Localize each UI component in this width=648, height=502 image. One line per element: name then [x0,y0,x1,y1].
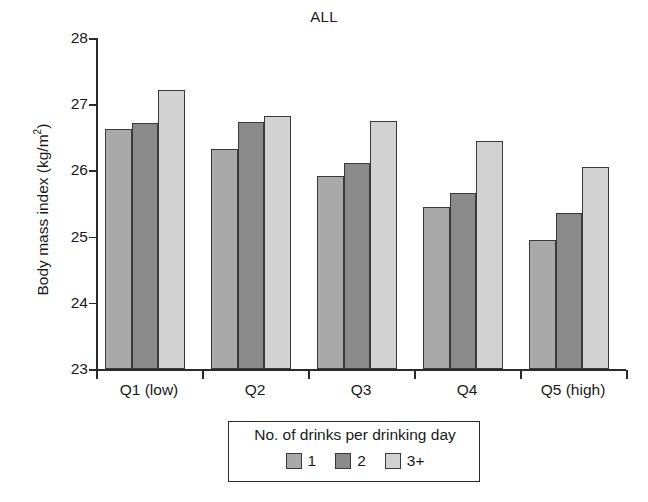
x-tick-mark [414,370,416,379]
bar [344,163,371,369]
x-tick-mark [626,370,628,379]
x-tick-label: Q2 [202,381,308,399]
y-tick-label: 27 [54,96,88,112]
bar [211,149,238,369]
legend-entry: 2 [335,453,366,469]
bar [370,121,397,369]
x-tick-label: Q4 [414,381,520,399]
x-tick-mark [96,370,98,379]
legend-entry: 3+ [385,453,425,469]
bar [264,116,291,369]
legend-title: No. of drinks per drinking day [229,426,481,444]
legend-label: 2 [357,453,366,469]
bar [423,207,450,369]
y-axis-title-text: Body mass index (kg/m [34,134,51,295]
y-tick-label: 23 [54,361,88,377]
y-axis-title: Body mass index (kg/m2) [32,40,51,380]
x-tick-mark [202,370,204,379]
legend: No. of drinks per drinking day 123+ [228,421,480,482]
x-tick-mark [308,370,310,379]
bar [450,193,477,369]
bar [582,167,609,369]
y-axis-tick-labels: 232425262728 [52,0,88,502]
y-axis-title-superscript: 2 [32,129,43,135]
y-tick-label: 24 [54,295,88,311]
plot-area [96,38,626,369]
x-tick-label: Q5 (high) [520,381,626,399]
legend-label: 3+ [407,453,425,469]
y-tick-label: 26 [54,162,88,178]
x-tick-label: Q3 [308,381,414,399]
bar [238,122,265,369]
bar [317,176,344,369]
x-tick-mark [520,370,522,379]
bar [529,240,556,369]
y-tick-label: 28 [54,30,88,46]
x-tick-label: Q1 (low) [96,381,202,399]
y-axis-title-tail: ) [34,124,51,129]
x-axis-line [96,369,626,371]
legend-swatch [286,453,302,469]
legend-entry: 1 [286,453,317,469]
y-tick-label: 25 [54,229,88,245]
chart-title: ALL [0,8,648,25]
bar [556,213,583,369]
bar [158,90,185,369]
legend-swatch [385,453,401,469]
bar [476,141,503,369]
bar [132,123,159,369]
chart-figure: ALL Body mass index (kg/m2) 232425262728… [0,0,648,502]
legend-label: 1 [308,453,317,469]
legend-entries: 123+ [229,453,481,469]
legend-swatch [335,453,351,469]
bar [105,129,132,369]
